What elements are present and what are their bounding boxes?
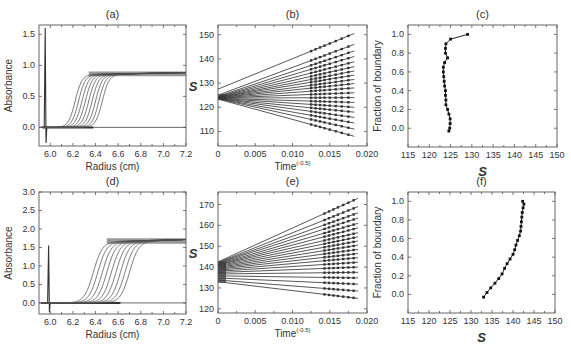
fit-line [218, 44, 354, 95]
data-point [323, 104, 325, 106]
y-tick-label: 0.4 [391, 86, 404, 96]
data-point [328, 267, 330, 269]
data-point [347, 266, 349, 268]
data-point [519, 230, 522, 233]
data-point [340, 101, 342, 103]
data-point [520, 216, 523, 219]
data-point [328, 226, 330, 228]
data-point [448, 127, 451, 130]
data-point [335, 81, 337, 83]
data-point [323, 100, 325, 102]
data-point [332, 259, 334, 261]
data-point [323, 44, 325, 46]
data-point [340, 120, 342, 122]
data-point [352, 228, 354, 230]
data-point [332, 229, 334, 231]
data-point [342, 277, 344, 279]
data-point [494, 282, 497, 285]
data-point [347, 234, 349, 236]
data-point [444, 47, 447, 50]
x-tick-label: 6.0 [44, 149, 57, 159]
data-point [337, 251, 339, 253]
data-point [332, 215, 334, 217]
x-tick-label: 135 [486, 150, 501, 160]
data-point [347, 87, 349, 89]
x-tick-label: 0 [215, 149, 220, 159]
data-point [342, 282, 344, 284]
data-point [323, 235, 325, 237]
data-point [342, 271, 344, 273]
data-point [328, 210, 330, 212]
data-point [352, 223, 354, 225]
meniscus-spike [44, 28, 47, 143]
y-tick-label: 0.0 [391, 123, 404, 133]
x-tick-label: 135 [484, 316, 499, 326]
data-point [335, 70, 337, 72]
y-axis-label: S [189, 246, 198, 261]
y-tick-label: 130 [199, 78, 214, 88]
scan-curve [41, 239, 187, 303]
data-point [332, 276, 334, 278]
data-point [314, 74, 316, 76]
x-tick-label: 120 [421, 316, 436, 326]
x-tick-label: 0.005 [244, 149, 267, 159]
data-point [522, 206, 525, 209]
data-point [347, 209, 349, 211]
data-point [342, 254, 344, 256]
y-tick-label: 1.0 [391, 29, 404, 39]
data-point [449, 117, 452, 120]
data-point [323, 256, 325, 258]
data-point [352, 283, 354, 285]
data-point [323, 276, 325, 278]
data-point [329, 108, 331, 110]
data-point [347, 253, 349, 255]
data-point [314, 115, 316, 117]
scan-curve [41, 239, 187, 303]
data-point [323, 228, 325, 230]
data-point [314, 125, 316, 127]
data-point [342, 266, 344, 268]
data-point [323, 253, 325, 255]
data-point [332, 263, 334, 265]
data-point [323, 60, 325, 62]
data-point [314, 77, 316, 79]
data-point [310, 107, 312, 109]
data-point [335, 61, 337, 63]
data-point [319, 100, 321, 102]
data-point [332, 241, 334, 243]
data-point [323, 260, 325, 262]
y-tick-label: 0.0 [22, 122, 35, 132]
data-point [323, 263, 325, 265]
y-tick-label: 0.6 [391, 234, 404, 244]
data-point [520, 220, 523, 223]
data-point [443, 80, 446, 83]
y-tick-label: 140 [199, 262, 214, 272]
data-point [328, 222, 330, 224]
data-point [342, 235, 344, 237]
data-point [328, 217, 330, 219]
data-point [310, 103, 312, 105]
data-point [314, 58, 316, 60]
data-point [323, 108, 325, 110]
x-tick-label: 130 [464, 150, 479, 160]
data-point [319, 97, 321, 99]
data-point [323, 219, 325, 221]
data-point [340, 84, 342, 86]
data-point [310, 110, 312, 112]
data-point [497, 277, 500, 280]
data-point [340, 37, 342, 39]
panel-e-s-vs-time: (e)00.0050.0100.0150.0201201301401501601… [189, 175, 379, 339]
scan-curve [41, 239, 187, 303]
data-point [347, 45, 349, 47]
data-point [444, 99, 447, 102]
data-point [314, 93, 316, 95]
data-point [347, 127, 349, 129]
data-point [347, 101, 349, 103]
data-point [323, 89, 325, 91]
data-point [328, 288, 330, 290]
data-point [328, 234, 330, 236]
data-point [347, 67, 349, 69]
data-point [335, 130, 337, 132]
data-point [314, 83, 316, 85]
data-point [329, 42, 331, 44]
